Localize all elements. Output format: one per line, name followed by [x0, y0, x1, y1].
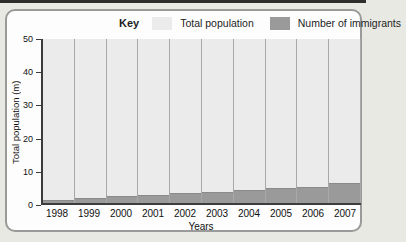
legend-label-immigrants: Number of immigrants: [298, 17, 401, 29]
total-population-bar: [297, 39, 328, 203]
y-tick-label: 50: [19, 34, 33, 44]
immigrants-segment: [234, 190, 265, 203]
bar-2001: [138, 39, 170, 203]
immigrants-segment: [170, 193, 201, 203]
immigrants-segment: [138, 195, 169, 203]
y-tick-label: 0: [19, 200, 33, 210]
immigrants-segment: [266, 188, 297, 203]
chart-card: Key Total population Number of immigrant…: [5, 9, 362, 232]
total-population-bar: [107, 39, 138, 203]
plot-area: [41, 39, 361, 205]
x-tick-label: 2007: [329, 208, 361, 219]
x-tick-label: 2003: [201, 208, 233, 219]
bar-2000: [107, 39, 139, 203]
x-axis-labels: 1998199920002001200220032004200520062007: [41, 208, 361, 219]
bar-1998: [43, 39, 75, 203]
total-population-bar: [202, 39, 233, 203]
immigrants-segment: [43, 200, 74, 203]
immigrants-segment: [297, 187, 328, 203]
y-tick-label: 10: [19, 167, 33, 177]
immigrants-segment: [202, 192, 233, 203]
bar-2004: [234, 39, 266, 203]
total-population-bar: [234, 39, 265, 203]
y-tick-label: 20: [19, 134, 33, 144]
x-tick-label: 2006: [297, 208, 329, 219]
total-population-bar: [170, 39, 201, 203]
total-population-bar: [75, 39, 106, 203]
immigrants-segment: [75, 198, 106, 203]
bar-2007: [329, 39, 361, 203]
total-population-bar: [138, 39, 169, 203]
chart-legend: Key Total population Number of immigrant…: [119, 15, 406, 31]
y-tick-label: 30: [19, 100, 33, 110]
bar-2006: [297, 39, 329, 203]
bar-2005: [266, 39, 298, 203]
y-axis-ticks: 01020304050: [19, 39, 41, 205]
x-axis-title: Years: [41, 221, 361, 232]
x-tick-label: 2005: [265, 208, 297, 219]
y-tick-label: 40: [19, 67, 33, 77]
x-tick-label: 2004: [233, 208, 265, 219]
x-tick-label: 1999: [73, 208, 105, 219]
page-top-edge: [0, 0, 366, 3]
x-tick-label: 2000: [105, 208, 137, 219]
x-tick-label: 1998: [41, 208, 73, 219]
bar-1999: [75, 39, 107, 203]
total-population-bar: [329, 39, 360, 203]
bar-2003: [202, 39, 234, 203]
bar-2002: [170, 39, 202, 203]
legend-key-label: Key: [119, 17, 139, 29]
total-population-bar: [43, 39, 74, 203]
immigrants-segment: [329, 183, 360, 203]
y-tick-mark: [36, 205, 41, 206]
legend-swatch-immigrants: [270, 17, 290, 30]
x-tick-label: 2001: [137, 208, 169, 219]
immigrants-segment: [107, 196, 138, 203]
x-tick-label: 2002: [169, 208, 201, 219]
legend-swatch-total-population: [152, 17, 172, 30]
total-population-bar: [266, 39, 297, 203]
legend-label-total-population: Total population: [180, 17, 254, 29]
